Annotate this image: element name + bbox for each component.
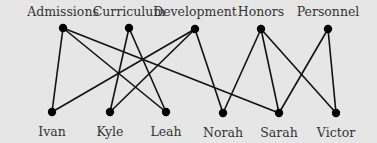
node-label-admissions: Admissions <box>27 4 99 19</box>
node-kyle <box>106 108 114 116</box>
edge-curriculum-kyle <box>110 28 129 112</box>
node-norah <box>219 109 227 117</box>
edge-honors-victor <box>261 29 336 113</box>
edge-admissions-leah <box>63 28 166 112</box>
node-label-sarah: Sarah <box>260 125 298 140</box>
node-ivan <box>48 108 56 116</box>
bipartite-graph: AdmissionsCurriculumDevelopmentHonorsPer… <box>0 0 377 143</box>
node-label-leah: Leah <box>150 124 181 139</box>
node-label-development: Development <box>153 4 237 19</box>
edge-admissions-ivan <box>52 28 63 112</box>
edge-curriculum-leah <box>129 28 166 112</box>
node-development <box>191 25 199 33</box>
node-label-personnel: Personnel <box>297 4 360 19</box>
edge-honors-norah <box>223 29 261 113</box>
edge-honors-sarah <box>261 29 279 113</box>
node-honors <box>257 25 265 33</box>
node-admissions <box>59 24 67 32</box>
node-curriculum <box>125 24 133 32</box>
node-label-kyle: Kyle <box>97 124 124 139</box>
edge-admissions-sarah <box>63 28 279 113</box>
edge-personnel-victor <box>328 29 336 113</box>
node-label-honors: Honors <box>238 4 284 19</box>
node-leah <box>162 108 170 116</box>
node-personnel <box>324 25 332 33</box>
node-label-norah: Norah <box>203 125 243 140</box>
graph-canvas <box>0 0 377 143</box>
node-label-ivan: Ivan <box>38 124 66 139</box>
node-sarah <box>275 109 283 117</box>
node-label-victor: Victor <box>317 125 355 140</box>
edge-development-norah <box>195 29 223 113</box>
edge-personnel-sarah <box>279 29 328 113</box>
node-victor <box>332 109 340 117</box>
